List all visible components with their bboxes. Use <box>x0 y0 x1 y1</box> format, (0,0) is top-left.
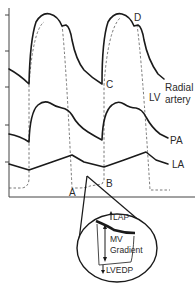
lap-label: LAP <box>113 212 129 222</box>
la-trace <box>9 152 168 170</box>
point-label-c: C <box>106 79 113 90</box>
point-label-d: D <box>134 12 141 23</box>
radial-label-line1: Radial <box>165 82 193 93</box>
radial-artery-trace <box>9 14 164 84</box>
lv-label: LV <box>149 92 161 103</box>
pa-label: PA <box>170 135 183 146</box>
la-label: LA <box>172 159 185 170</box>
mv-gradient-line1: MV <box>110 234 123 244</box>
waveform-diagram: D C A B Radial artery LV PA LA LAP MV Gr… <box>0 0 195 289</box>
lv-trace <box>9 18 170 190</box>
radial-label-line2: artery <box>165 94 191 105</box>
lvedp-label: LVEDP <box>106 265 134 275</box>
pa-trace <box>9 102 168 142</box>
point-label-b: B <box>106 178 113 189</box>
point-label-a: A <box>69 187 76 198</box>
mv-gradient-line2: Gradient <box>110 245 143 255</box>
